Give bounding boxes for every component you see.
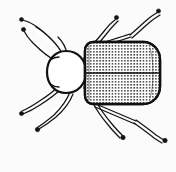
leg-hind-right-outer-tarsus [163, 138, 167, 142]
leg-hind-right-tarsus [121, 135, 125, 139]
leg-front-left-tarsus [20, 18, 24, 22]
beetle-illustration: Beetle dorsal view line drawing [0, 0, 176, 172]
leg-front-right-tarsus [114, 15, 118, 19]
leg-middle-right-tarsus [156, 9, 160, 13]
elytra-upper-texture [84, 41, 162, 75]
elytra-lower-texture [84, 72, 162, 106]
elytra [84, 41, 162, 106]
antenna-left-tip [21, 27, 25, 31]
figure-root: Beetle dorsal view line drawing Beetle d… [0, 0, 176, 172]
head-pronotum [47, 51, 86, 93]
leg-middle-left-tarsus [19, 111, 23, 115]
leg-hind-left-tarsus [35, 127, 39, 131]
